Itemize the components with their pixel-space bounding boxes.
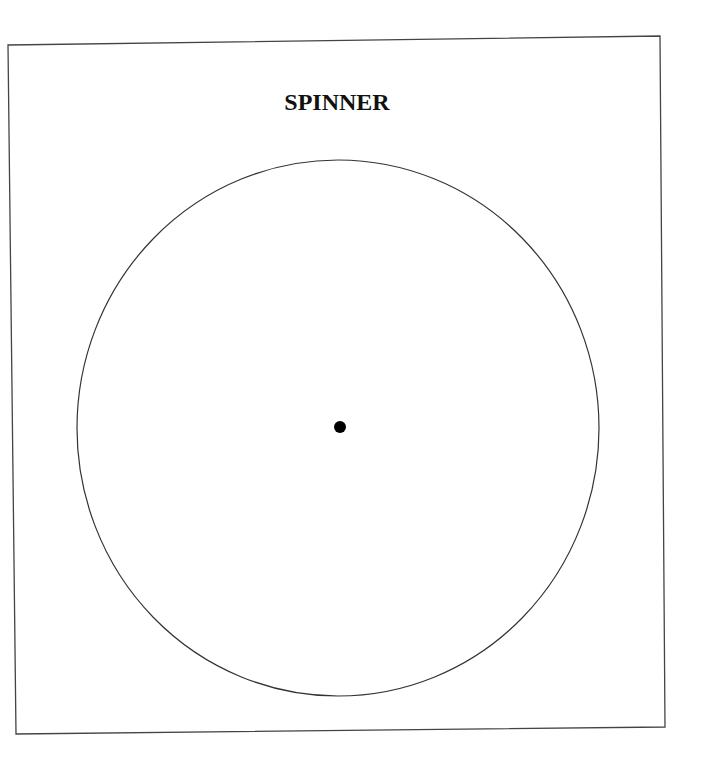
diagram-frame <box>8 36 665 734</box>
spinner-diagram: SPINNER <box>0 0 704 768</box>
diagram-title: SPINNER <box>284 89 390 115</box>
spinner-center-dot <box>334 421 346 433</box>
